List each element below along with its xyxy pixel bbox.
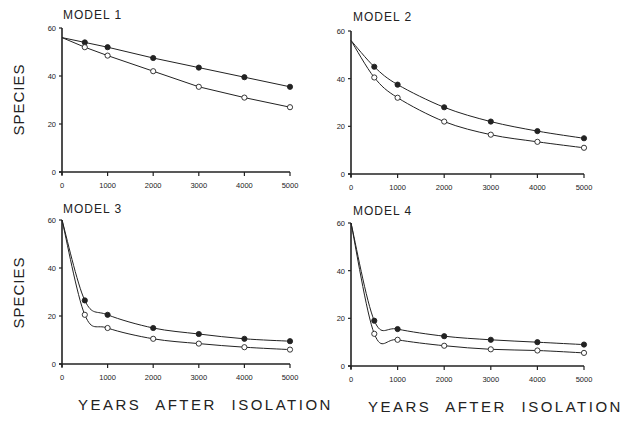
open-circle-marker-icon xyxy=(372,75,377,80)
open-circle-marker-icon xyxy=(581,350,586,355)
series-line-filled xyxy=(62,220,290,341)
filled-circle-marker-icon xyxy=(395,82,400,87)
open-circle-marker-icon xyxy=(395,337,400,342)
y-tick-label: 60 xyxy=(337,27,345,36)
open-circle-marker-icon xyxy=(581,145,586,150)
open-circle-marker-icon xyxy=(151,336,156,341)
x-tick-label: 5000 xyxy=(576,183,593,192)
filled-circle-marker-icon xyxy=(105,312,110,317)
x-tick-label: 2000 xyxy=(436,183,453,192)
open-circle-marker-icon xyxy=(395,95,400,100)
open-circle-marker-icon xyxy=(488,347,493,352)
x-tick-label: 4000 xyxy=(529,183,546,192)
x-tick-label: 0 xyxy=(349,375,353,384)
filled-circle-marker-icon xyxy=(535,340,540,345)
y-tick-label: 20 xyxy=(48,312,56,321)
filled-circle-marker-icon xyxy=(105,45,110,50)
x-axis-label-right: YEARS AFTER ISOLATION xyxy=(368,398,623,415)
filled-circle-marker-icon xyxy=(287,84,292,89)
y-tick-label: 60 xyxy=(48,24,56,33)
x-tick-label: 3000 xyxy=(482,375,499,384)
y-axis-label-top: SPECIES xyxy=(10,66,27,136)
y-tick-label: 0 xyxy=(52,360,56,369)
y-tick-label: 40 xyxy=(337,267,345,276)
open-circle-marker-icon xyxy=(242,95,247,100)
y-tick-label: 0 xyxy=(341,170,345,179)
panel-title-model-1: MODEL 1 xyxy=(63,8,122,22)
y-tick-label: 60 xyxy=(48,216,56,225)
series-line-filled xyxy=(351,223,584,345)
open-circle-marker-icon xyxy=(242,345,247,350)
y-tick-label: 40 xyxy=(48,72,56,81)
open-circle-marker-icon xyxy=(535,348,540,353)
y-axis-label-bottom: SPECIES xyxy=(10,259,27,329)
x-tick-label: 4000 xyxy=(236,181,253,190)
x-tick-label: 2000 xyxy=(145,181,162,190)
panel-model-1: 0204060010002000300040005000 xyxy=(48,24,299,190)
series-line-open xyxy=(351,223,584,353)
open-circle-marker-icon xyxy=(151,69,156,74)
open-circle-marker-icon xyxy=(442,343,447,348)
filled-circle-marker-icon xyxy=(488,337,493,342)
series-line-open xyxy=(351,41,584,148)
panel-model-2: 0204060010002000300040005000 xyxy=(337,27,593,192)
x-tick-label: 2000 xyxy=(145,373,162,382)
series-line-open xyxy=(62,220,290,350)
filled-circle-marker-icon xyxy=(581,136,586,141)
open-circle-marker-icon xyxy=(196,341,201,346)
y-tick-label: 40 xyxy=(337,75,345,84)
filled-circle-marker-icon xyxy=(242,336,247,341)
y-tick-label: 20 xyxy=(48,120,56,129)
filled-circle-marker-icon xyxy=(395,326,400,331)
x-tick-label: 1000 xyxy=(99,181,116,190)
x-tick-label: 4000 xyxy=(529,375,546,384)
open-circle-marker-icon xyxy=(442,119,447,124)
x-axis-label-left: YEARS AFTER ISOLATION xyxy=(78,396,333,413)
open-circle-marker-icon xyxy=(105,53,110,58)
x-tick-label: 5000 xyxy=(282,373,299,382)
open-circle-marker-icon xyxy=(535,139,540,144)
open-circle-marker-icon xyxy=(488,132,493,137)
filled-circle-marker-icon xyxy=(442,105,447,110)
open-circle-marker-icon xyxy=(372,331,377,336)
panel-model-3: 0204060010002000300040005000 xyxy=(48,216,299,382)
filled-circle-marker-icon xyxy=(581,342,586,347)
filled-circle-marker-icon xyxy=(82,298,87,303)
open-circle-marker-icon xyxy=(82,312,87,317)
x-tick-label: 0 xyxy=(60,373,64,382)
filled-circle-marker-icon xyxy=(151,325,156,330)
filled-circle-marker-icon xyxy=(442,334,447,339)
panel-title-model-3: MODEL 3 xyxy=(63,202,122,216)
x-tick-label: 3000 xyxy=(190,181,207,190)
x-tick-label: 3000 xyxy=(190,373,207,382)
y-tick-label: 20 xyxy=(337,122,345,131)
open-circle-marker-icon xyxy=(82,45,87,50)
x-tick-label: 1000 xyxy=(389,183,406,192)
open-circle-marker-icon xyxy=(287,105,292,110)
x-tick-label: 2000 xyxy=(436,375,453,384)
x-tick-label: 5000 xyxy=(576,375,593,384)
filled-circle-marker-icon xyxy=(287,339,292,344)
x-tick-label: 1000 xyxy=(389,375,406,384)
filled-circle-marker-icon xyxy=(372,318,377,323)
filled-circle-marker-icon xyxy=(151,55,156,60)
filled-circle-marker-icon xyxy=(535,129,540,134)
y-tick-label: 40 xyxy=(48,264,56,273)
open-circle-marker-icon xyxy=(105,325,110,330)
filled-circle-marker-icon xyxy=(196,331,201,336)
y-tick-label: 20 xyxy=(337,314,345,323)
open-circle-marker-icon xyxy=(196,84,201,89)
x-tick-label: 3000 xyxy=(482,183,499,192)
open-circle-marker-icon xyxy=(287,347,292,352)
panel-model-4: 0204060010002000300040005000 xyxy=(337,219,593,384)
x-tick-label: 4000 xyxy=(236,373,253,382)
filled-circle-marker-icon xyxy=(196,65,201,70)
x-tick-label: 0 xyxy=(60,181,64,190)
panel-title-model-4: MODEL 4 xyxy=(353,204,412,218)
filled-circle-marker-icon xyxy=(488,119,493,124)
panel-title-model-2: MODEL 2 xyxy=(353,10,412,24)
x-tick-label: 0 xyxy=(349,183,353,192)
y-tick-label: 60 xyxy=(337,219,345,228)
y-tick-label: 0 xyxy=(341,362,345,371)
filled-circle-marker-icon xyxy=(242,75,247,80)
